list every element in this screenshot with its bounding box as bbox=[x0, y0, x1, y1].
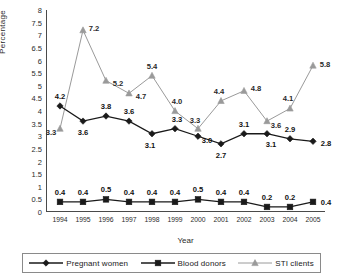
y-axis-tick-label: 1 bbox=[38, 182, 42, 191]
x-axis-tick-label: 1998 bbox=[144, 216, 159, 223]
data-point-label: 3.3 bbox=[190, 115, 201, 124]
y-axis-tick-label: 7.5 bbox=[32, 18, 42, 27]
data-point-label: 3.6 bbox=[271, 121, 282, 130]
diamond-marker-icon bbox=[29, 258, 63, 268]
data-point-label: 0.4 bbox=[55, 187, 66, 196]
data-point-label: 2.9 bbox=[285, 124, 296, 133]
y-axis-tick-label: 5 bbox=[38, 81, 42, 90]
y-axis-title: Percentage bbox=[0, 0, 7, 92]
data-point-label: 4.0 bbox=[172, 97, 183, 106]
data-point-label: 0.4 bbox=[170, 187, 181, 196]
y-axis-tick-label: 0.5 bbox=[32, 195, 42, 204]
y-axis-tick-label: 7 bbox=[38, 31, 42, 40]
x-axis-tick-label: 1996 bbox=[98, 216, 113, 223]
y-axis-tick-label: 4.5 bbox=[32, 94, 42, 103]
x-axis-tick-label: 2000 bbox=[190, 216, 205, 223]
legend-label: Blood donors bbox=[178, 259, 226, 268]
data-point-label: 3.1 bbox=[145, 140, 156, 149]
x-axis-tick-label: 2005 bbox=[305, 216, 320, 223]
x-axis-tick-label: 2003 bbox=[259, 216, 274, 223]
x-axis-title: Year bbox=[46, 236, 325, 245]
y-axis-tick-label: 8 bbox=[38, 6, 42, 15]
data-point-label: 0.4 bbox=[321, 197, 332, 206]
y-axis-tick-label: 1.5 bbox=[32, 170, 42, 179]
data-point-label: 5.8 bbox=[320, 59, 331, 68]
chart-figure: Percentage 00.511.522.533.544.555.566.57… bbox=[0, 0, 341, 279]
data-point-label: 3.3 bbox=[46, 127, 57, 136]
x-axis-tick-label: 1994 bbox=[52, 216, 67, 223]
x-axis-tick-label: 2002 bbox=[236, 216, 251, 223]
data-point-label: 3.3 bbox=[172, 114, 183, 123]
series-sti-clients bbox=[57, 27, 316, 131]
legend-item[interactable]: STI clients bbox=[238, 258, 313, 268]
y-axis-tick-label: 4 bbox=[38, 107, 42, 116]
data-point-label: 7.2 bbox=[89, 24, 100, 33]
data-point-label: 0.4 bbox=[78, 187, 89, 196]
data-point-label: 0.4 bbox=[239, 187, 250, 196]
data-point-label: 3.1 bbox=[266, 139, 277, 148]
data-point-label: 3.8 bbox=[101, 102, 112, 111]
triangle-marker-icon bbox=[238, 258, 272, 268]
chart-canvas bbox=[46, 10, 325, 212]
data-point-label: 0.4 bbox=[216, 187, 227, 196]
x-axis-tick-label: 2004 bbox=[282, 216, 297, 223]
data-point-label: 0.2 bbox=[262, 192, 273, 201]
data-point-label: 4.8 bbox=[251, 83, 262, 92]
y-axis-tick-label: 2.5 bbox=[32, 144, 42, 153]
legend-label: STI clients bbox=[275, 259, 313, 268]
data-point-label: 2.8 bbox=[321, 139, 332, 148]
y-axis-tick-label: 6 bbox=[38, 56, 42, 65]
data-point-label: 0.4 bbox=[124, 187, 135, 196]
data-point-label: 5.4 bbox=[147, 61, 158, 70]
y-axis-tick-label: 0 bbox=[38, 208, 42, 217]
plot-area: 00.511.522.533.544.555.566.577.58 199419… bbox=[46, 10, 325, 212]
data-point-label: 3.0 bbox=[202, 136, 213, 145]
data-point-label: 3.1 bbox=[239, 119, 250, 128]
series-blood-donors bbox=[57, 197, 316, 210]
y-axis-tick-label: 3.5 bbox=[32, 119, 42, 128]
legend-item[interactable]: Pregnant women bbox=[29, 258, 128, 268]
y-axis-tick-label: 5.5 bbox=[32, 69, 42, 78]
data-point-label: 0.5 bbox=[193, 185, 204, 194]
y-axis-tick-label: 6.5 bbox=[32, 43, 42, 52]
legend-label: Pregnant women bbox=[66, 259, 128, 268]
chart-legend: Pregnant womenBlood donorsSTI clients bbox=[22, 253, 321, 273]
data-point-label: 0.4 bbox=[147, 187, 158, 196]
data-point-label: 3.6 bbox=[124, 107, 135, 116]
data-point-label: 4.2 bbox=[55, 91, 66, 100]
legend-item[interactable]: Blood donors bbox=[141, 258, 226, 268]
data-point-label: 3.6 bbox=[78, 128, 89, 137]
x-axis-tick-label: 1997 bbox=[121, 216, 136, 223]
y-axis-tick-label: 3 bbox=[38, 132, 42, 141]
y-axis-tick-label: 2 bbox=[38, 157, 42, 166]
x-axis-tick-label: 1999 bbox=[167, 216, 182, 223]
data-point-label: 4.4 bbox=[214, 86, 225, 95]
data-point-label: 4.7 bbox=[136, 92, 147, 101]
square-marker-icon bbox=[141, 258, 175, 268]
data-point-label: 4.1 bbox=[283, 94, 294, 103]
data-point-label: 2.7 bbox=[216, 150, 227, 159]
x-axis-tick-label: 1995 bbox=[75, 216, 90, 223]
data-point-label: 0.5 bbox=[101, 185, 112, 194]
data-point-label: 0.2 bbox=[285, 192, 296, 201]
x-axis-tick-label: 2001 bbox=[213, 216, 228, 223]
data-point-label: 5.2 bbox=[113, 78, 124, 87]
